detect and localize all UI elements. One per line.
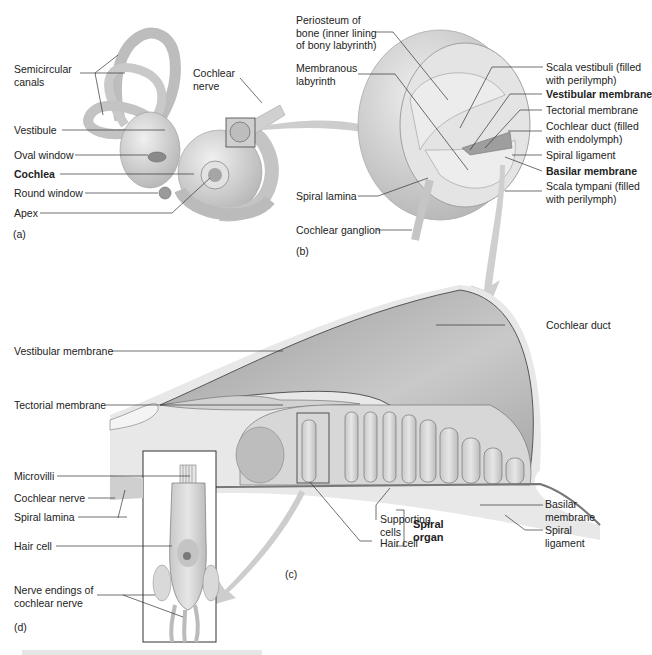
label-spiral-organ: Spiral organ — [413, 518, 444, 543]
label-periosteum: Periosteum of bone (inner lining of bony… — [296, 14, 377, 52]
label-round-window: Round window — [14, 187, 83, 200]
label-cochlear-nerve-a: Cochlear nerve — [193, 67, 235, 92]
label-cochlear-nerve-d: Cochlear nerve — [14, 492, 85, 505]
label-scala-vestibuli: Scala vestibuli (filled with perilymph) — [546, 61, 641, 86]
label-basilar-membrane-b: Basilar membrane — [546, 165, 637, 178]
panel-tag-d: (d) — [14, 621, 27, 633]
label-hair-cell-d: Hair cell — [14, 540, 52, 553]
panel-b-art — [358, 30, 530, 305]
panel-tag-b: (b) — [296, 245, 309, 257]
label-nerve-endings: Nerve endings of cochlear nerve — [14, 584, 93, 609]
label-spiral-ligament-b: Spiral ligament — [546, 149, 615, 162]
panel-tag-c: (c) — [285, 568, 297, 580]
label-spiral-lamina-d: Spiral lamina — [14, 511, 75, 524]
caption-truncated — [22, 650, 262, 655]
label-vestibular-membrane-b: Vestibular membrane — [546, 88, 652, 101]
panel-a-art — [88, 33, 385, 214]
label-vestibule: Vestibule — [14, 124, 57, 137]
label-scala-tympani: Scala tympani (filled with perilymph) — [546, 180, 640, 205]
label-cochlea: Cochlea — [14, 168, 55, 181]
label-vestibular-membrane-c: Vestibular membrane — [14, 345, 113, 358]
label-apex: Apex — [14, 207, 38, 220]
label-cochlear-duct-c: Cochlear duct — [546, 319, 611, 332]
label-membranous-labyrinth: Membranous labyrinth — [296, 62, 357, 87]
label-cochlear-duct-b: Cochlear duct (filled with endolymph) — [546, 120, 639, 145]
label-cochlear-ganglion: Cochlear ganglion — [296, 224, 381, 237]
panel-tag-a: (a) — [13, 228, 26, 240]
label-tectorial-membrane-b: Tectorial membrane — [546, 104, 638, 117]
label-oval-window: Oval window — [14, 149, 74, 162]
label-tectorial-membrane-c: Tectorial membrane — [14, 399, 106, 412]
panel-d-art — [110, 451, 219, 642]
label-semicircular-canals: Semicircular canals — [14, 63, 72, 88]
label-spiral-ligament-c: Spiral ligament — [545, 524, 585, 549]
label-spiral-lamina-b: Spiral lamina — [296, 190, 357, 203]
label-basilar-membrane-c: Basilar membrane — [545, 498, 595, 523]
label-microvilli: Microvilli — [14, 470, 54, 483]
